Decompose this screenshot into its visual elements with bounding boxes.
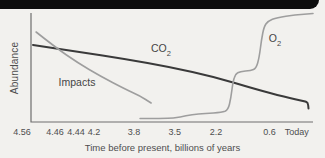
x-tick-labels: 4.564.464.444.23.83.52.20.6Today: [0, 127, 325, 139]
o2-curve-label-text: O: [269, 32, 277, 44]
co2-curve-label: CO2: [151, 42, 171, 57]
x-tick-label: 3.5: [169, 127, 182, 137]
x-tick-label: 3.8: [128, 127, 141, 137]
o2-curve-label: O2: [269, 32, 281, 47]
x-tick-label: 4.56: [13, 127, 31, 137]
impacts-curve-label: Impacts: [59, 76, 96, 88]
x-tick-label: 2.2: [210, 127, 223, 137]
x-tick-label: 4.44: [67, 127, 85, 137]
abundance-vs-time-figure: Abundance 4.564.464.444.23.83.52.20.6Tod…: [0, 0, 325, 158]
y-axis-label: Abundance: [9, 42, 20, 94]
curve-impacts: [36, 32, 151, 103]
curves-group: [33, 14, 313, 119]
impacts-curve-label-text: Impacts: [59, 76, 96, 88]
co2-curve-label-text: CO: [151, 42, 167, 54]
o2-curve-label-subscript: 2: [277, 39, 281, 48]
co2-curve-label-subscript: 2: [167, 49, 171, 58]
x-tick-label: 4.46: [46, 127, 64, 137]
x-axis-title: Time before present, billions of years: [0, 142, 325, 153]
x-tick-label: 4.2: [88, 127, 101, 137]
x-tick-label: Today: [285, 127, 309, 137]
x-tick-label: 0.6: [263, 127, 276, 137]
